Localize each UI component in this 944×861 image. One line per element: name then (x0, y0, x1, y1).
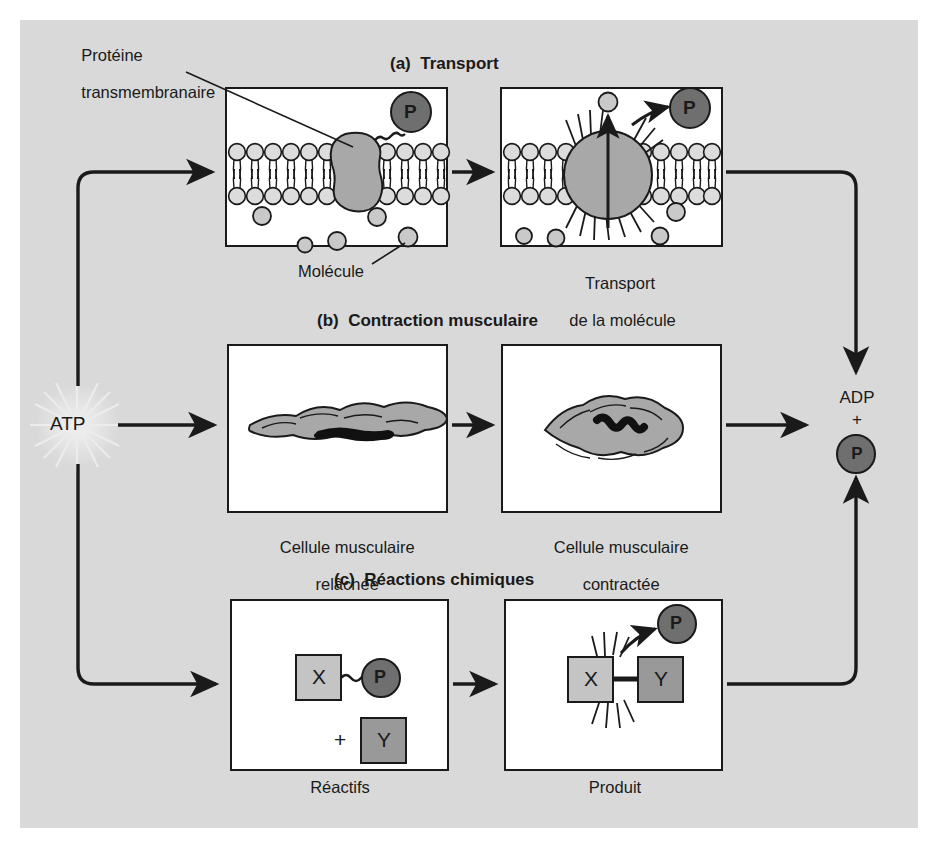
protein-annotation-line2: transmembranaire (81, 83, 215, 101)
flow-arrow-reaction-to-adp (727, 478, 856, 684)
panel-c-right-caption: Produit (556, 778, 674, 796)
figure-root: Protéine transmembranaire (a) Transport … (0, 0, 944, 861)
panel-b-left-caption: Cellule musculaire relâchée (255, 520, 421, 612)
transport-caption-line1: Transport (585, 274, 655, 292)
transport-caption-line2: de la molécule (569, 311, 675, 329)
adp-phosphate-label: P (829, 444, 885, 463)
contracted-caption-line1: Cellule musculaire (554, 538, 689, 556)
protein-annotation-line1: Protéine (81, 46, 142, 64)
molecule-icon (253, 207, 271, 225)
adp-label: ADP (829, 388, 885, 407)
reactants-plus-label: + (334, 728, 346, 752)
panel-c-left-caption: Réactifs (281, 778, 399, 796)
atp-label: ATP (50, 413, 86, 434)
phosphate-label-c-left: P (374, 667, 386, 687)
molecule-icon (399, 228, 418, 247)
panel-b-right-caption: Cellule musculaire contractée (529, 520, 695, 612)
section-b-header: (b) Contraction musculaire (317, 311, 538, 330)
transported-molecule-icon (599, 93, 618, 112)
flow-arrow-atp-to-reaction (78, 464, 216, 684)
block-x-label-product: X (584, 667, 598, 691)
transmembrane-protein-icon (331, 133, 383, 212)
molecule-annotation: Molécule (298, 262, 364, 280)
molecule-icon (516, 228, 532, 244)
molecule-icon (652, 228, 669, 245)
panel-a-right-caption: Transport de la molécule (551, 256, 671, 348)
contracted-caption-line2: contractée (583, 575, 660, 593)
protein-annotation: Protéine transmembranaire (63, 28, 215, 120)
molecule-icon (548, 230, 565, 247)
molecule-icon (368, 208, 386, 226)
molecule-icon (667, 203, 685, 221)
flow-arrow-atp-to-transport (78, 172, 212, 386)
relaxed-caption-line1: Cellule musculaire (280, 538, 415, 556)
section-a-header: (a) Transport (390, 54, 499, 73)
relaxed-caption-line2: relâchée (316, 575, 379, 593)
diagram-canvas (0, 0, 944, 861)
block-x-label-reactants: X (312, 665, 326, 689)
phosphate-label-a-left: P (404, 101, 417, 122)
block-y-label-reactants: Y (377, 728, 391, 752)
flow-arrow-transport-to-adp (726, 172, 856, 372)
molecule-icon (298, 238, 313, 253)
adp-plus-label: + (829, 410, 885, 429)
molecule-icon (328, 232, 346, 250)
phosphate-label-a-right: P (683, 97, 696, 118)
phosphate-label-c-right: P (670, 613, 682, 633)
block-y-label-product: Y (654, 667, 668, 691)
